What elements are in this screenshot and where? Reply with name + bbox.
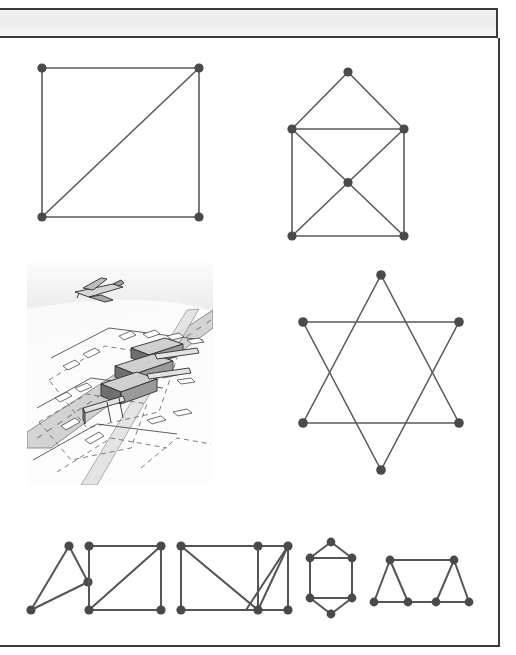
edges xyxy=(374,560,469,602)
edges xyxy=(89,546,161,610)
figure-canvas xyxy=(0,38,498,645)
graph-house-x xyxy=(286,66,416,241)
vertices xyxy=(306,538,357,619)
graph-square-diagonal-2 xyxy=(82,538,168,618)
vertices xyxy=(287,67,408,240)
vertices xyxy=(298,270,464,475)
edges xyxy=(292,72,404,236)
graph-hexagram xyxy=(296,270,466,475)
graph-triangular-strip xyxy=(368,550,476,612)
edges xyxy=(42,68,199,217)
page-frame-bottom-rule xyxy=(0,645,500,647)
edges xyxy=(303,275,459,470)
edges xyxy=(310,542,352,614)
page-frame-right-rule xyxy=(498,38,500,646)
page-header-band xyxy=(0,8,498,38)
graph-grid-diagonals xyxy=(174,538,296,618)
graph-square-diagonal xyxy=(34,60,209,225)
edges xyxy=(181,546,288,610)
airport-illustration-svg xyxy=(27,262,213,485)
vertices xyxy=(176,541,292,614)
vertices xyxy=(370,556,474,607)
graph-barrel xyxy=(302,536,360,620)
figure-page xyxy=(0,0,516,655)
airport-illustration xyxy=(27,262,213,485)
edges xyxy=(31,546,88,610)
